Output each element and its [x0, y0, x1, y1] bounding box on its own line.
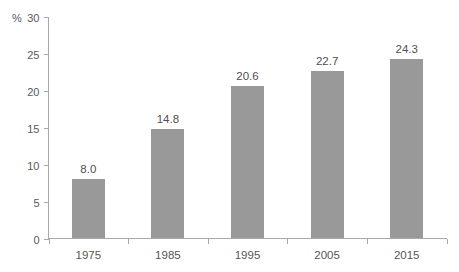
- bar-value-label: 8.0: [80, 163, 96, 175]
- y-tick-label: 5: [33, 197, 39, 209]
- bar[interactable]: [390, 59, 423, 238]
- bar-chart: 051015202530 % 8.014.820.622.724.3 19751…: [0, 0, 459, 272]
- bar-value-label: 24.3: [396, 43, 418, 55]
- bar[interactable]: [151, 129, 184, 238]
- x-category-label: 2005: [314, 249, 340, 261]
- x-category-label: 1995: [235, 249, 261, 261]
- bar[interactable]: [311, 71, 344, 238]
- y-tick-label: 25: [27, 49, 39, 61]
- chart-canvas: 051015202530 % 8.014.820.622.724.3 19751…: [0, 0, 459, 272]
- bar-value-label: 20.6: [236, 70, 258, 82]
- bar[interactable]: [72, 179, 105, 238]
- x-category-label: 1975: [76, 249, 102, 261]
- x-category-label: 1985: [155, 249, 181, 261]
- bar-series: [72, 59, 423, 238]
- y-tick-label: 20: [27, 86, 39, 98]
- bar-value-label: 14.8: [157, 113, 179, 125]
- y-tick-label: 30: [27, 12, 39, 24]
- y-tick-label: 10: [27, 160, 39, 172]
- x-axis-ticks: [50, 239, 448, 244]
- bar-value-label: 22.7: [316, 55, 338, 67]
- y-tick-label: 0: [33, 234, 39, 246]
- category-labels: 19751985199520052015: [76, 249, 420, 261]
- x-category-label: 2015: [394, 249, 420, 261]
- y-axis-unit-label: %: [12, 12, 22, 24]
- y-axis-ticks: 051015202530: [27, 12, 48, 246]
- bar[interactable]: [231, 86, 264, 238]
- y-tick-label: 15: [27, 123, 39, 135]
